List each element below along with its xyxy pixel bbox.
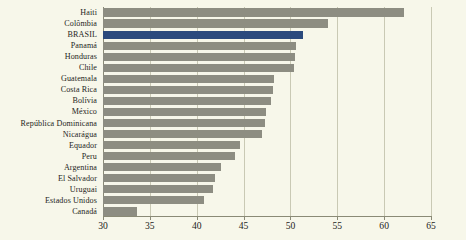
- bar: [103, 141, 240, 149]
- bar-fill: [103, 163, 221, 171]
- bar-fill: [103, 42, 296, 50]
- bar: [103, 174, 215, 182]
- category-label: Estados Unidos: [45, 195, 97, 206]
- bar: [103, 19, 328, 27]
- bar: [103, 75, 274, 83]
- bar: [103, 8, 404, 16]
- category-label: Chile: [79, 62, 97, 73]
- gridline: [337, 7, 338, 216]
- bar: [103, 53, 295, 61]
- x-tick-label: 35: [135, 219, 165, 233]
- category-label: Guatemala: [61, 73, 97, 84]
- bar-fill: [103, 86, 273, 94]
- bar-chart: 3035404550556065 HaitiColômbiaBRASILPana…: [0, 0, 466, 240]
- category-label: Uruguai: [70, 184, 97, 195]
- bar-fill: [103, 185, 213, 193]
- bar: [103, 130, 262, 138]
- x-tick-label: 55: [322, 219, 352, 233]
- bar-fill: [103, 75, 274, 83]
- x-axis-line: [103, 216, 432, 217]
- category-label: Colômbia: [64, 18, 97, 29]
- category-label: El Salvador: [58, 173, 97, 184]
- category-label: Canadá: [72, 206, 97, 217]
- bar: [103, 31, 303, 39]
- x-tick-label: 45: [229, 219, 259, 233]
- bar-fill: [103, 174, 215, 182]
- bar-fill: [103, 141, 240, 149]
- category-label: República Dominicana: [21, 118, 97, 129]
- bar-fill: [103, 108, 266, 116]
- bar-fill: [103, 207, 137, 215]
- category-label: Peru: [82, 151, 97, 162]
- x-tick-label: 60: [369, 219, 399, 233]
- category-label: Argentina: [64, 162, 97, 173]
- x-tick-label: 40: [182, 219, 212, 233]
- bar: [103, 185, 213, 193]
- category-label: BRASIL: [68, 29, 97, 40]
- bar-fill: [103, 152, 235, 160]
- x-tick-label: 30: [88, 219, 118, 233]
- category-label: México: [72, 106, 97, 117]
- bar-fill: [103, 53, 295, 61]
- category-label: Bolívia: [72, 95, 97, 106]
- bar-fill: [103, 97, 271, 105]
- category-label: Equador: [69, 140, 97, 151]
- category-label: Costa Rica: [61, 84, 97, 95]
- bar: [103, 97, 271, 105]
- bar: [103, 119, 265, 127]
- category-label: Nicarágua: [63, 129, 97, 140]
- bar-fill: [103, 196, 204, 204]
- bar-fill: [103, 130, 262, 138]
- bar: [103, 64, 294, 72]
- bar: [103, 207, 137, 215]
- bar-fill-highlight: [103, 31, 303, 39]
- bar-fill: [103, 64, 294, 72]
- category-label: Haiti: [80, 7, 97, 18]
- bar: [103, 108, 266, 116]
- gridline: [384, 7, 385, 216]
- bar: [103, 163, 221, 171]
- bar-fill: [103, 19, 328, 27]
- bar-fill: [103, 119, 265, 127]
- bar: [103, 86, 273, 94]
- category-label: Panamá: [71, 40, 97, 51]
- x-tick-label: 50: [275, 219, 305, 233]
- bar: [103, 42, 296, 50]
- bar-fill: [103, 8, 404, 16]
- category-label: Honduras: [65, 51, 97, 62]
- bar: [103, 152, 235, 160]
- gridline: [431, 7, 432, 216]
- bar: [103, 196, 204, 204]
- x-tick-label: 65: [416, 219, 446, 233]
